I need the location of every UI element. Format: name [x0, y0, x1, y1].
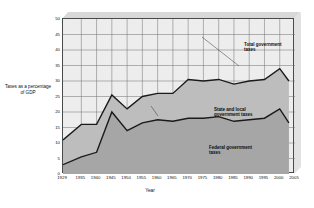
x-axis-tick: 1950 — [121, 175, 131, 180]
plot-area: Total government taxes State and local g… — [62, 18, 294, 173]
x-axis-tick: 1980 — [213, 175, 223, 180]
x-axis-tick: 1970 — [182, 175, 192, 180]
y-axis-tick: 35 — [46, 62, 60, 67]
x-axis-tick: 1935 — [76, 175, 86, 180]
x-axis-tick: 1960 — [152, 175, 162, 180]
x-axis-title: Year — [120, 188, 180, 193]
x-axis-tick: 1985 — [228, 175, 238, 180]
x-axis-tick: 2000 — [274, 175, 284, 180]
x-axis-tick: 1929 — [57, 175, 67, 180]
y-axis-tick: 15 — [46, 124, 60, 129]
x-axis-tick: 1990 — [243, 175, 253, 180]
x-axis-tick: 1945 — [106, 175, 116, 180]
chart-figure: Taxes as a percentage of GDP 05101520253… — [0, 0, 314, 208]
y-axis-tick: 20 — [46, 109, 60, 114]
y-axis-tick: 10 — [46, 140, 60, 145]
y-axis-tick: 50 — [46, 16, 60, 21]
x-axis-tick: 1940 — [91, 175, 101, 180]
y-axis-tick-labels: 05101520253035404550 — [44, 18, 60, 173]
y-axis-tick: 30 — [46, 78, 60, 83]
y-axis-tick: 40 — [46, 47, 60, 52]
x-axis-tick: 2005 — [289, 175, 299, 180]
annotation-total-government-taxes: Total government taxes — [244, 42, 281, 53]
x-axis-tick: 1995 — [259, 175, 269, 180]
chart-3d-right-rim — [294, 12, 301, 174]
annotation-federal-government-taxes: Federal government taxes — [209, 145, 252, 156]
x-axis-tick: 1975 — [198, 175, 208, 180]
x-axis-tick: 1965 — [167, 175, 177, 180]
x-axis-tick: 1955 — [137, 175, 147, 180]
annotation-state-local-government-taxes: State and local government taxes — [214, 107, 253, 118]
y-axis-tick: 25 — [46, 93, 60, 98]
y-axis-tick: 45 — [46, 31, 60, 36]
y-axis-tick: 5 — [46, 155, 60, 160]
x-axis-tick-labels: 1929193519401945195019551960196519701975… — [62, 175, 302, 184]
